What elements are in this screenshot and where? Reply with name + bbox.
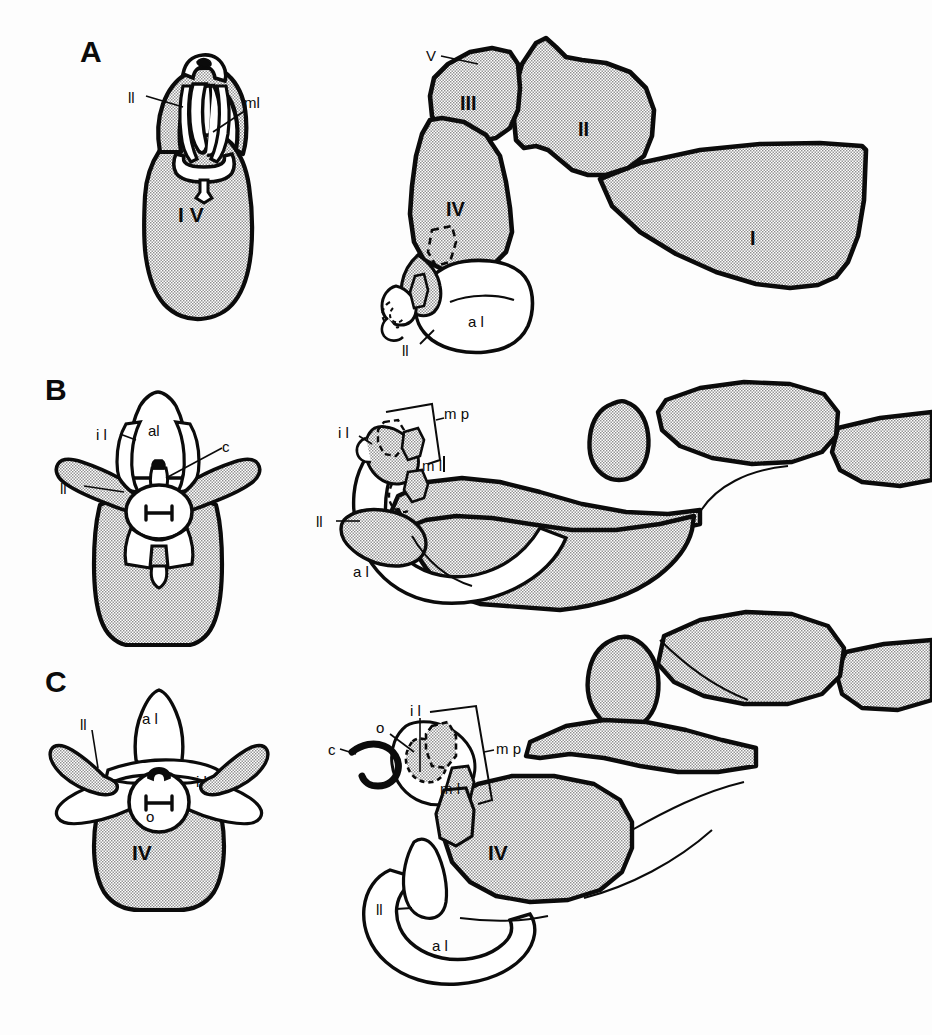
pedestal-keel-b: [151, 566, 166, 588]
segment-round-c: [588, 637, 659, 730]
label-al-c-dorsal: a l: [142, 710, 158, 727]
label-v-a: V: [426, 47, 436, 64]
label-iv-c-lateral: IV: [488, 841, 508, 864]
label-o-c-dorsal: o: [146, 808, 154, 825]
apical-notch-a: [197, 59, 211, 67]
panel-letter-a: A: [80, 35, 102, 68]
label-mp-b: m p: [444, 405, 469, 422]
label-ml-b: m l: [422, 457, 442, 474]
label-mp-c: m p: [496, 740, 521, 757]
mouthpart-dashed-c: [426, 722, 456, 768]
label-iv-a-lateral: IV: [446, 198, 466, 220]
label-ml-a: ml: [244, 94, 260, 111]
label-ll-c-dorsal: ll: [80, 716, 87, 733]
label-iii-a: III: [460, 92, 477, 114]
label-iv-a-dorsal: I V: [178, 203, 204, 226]
label-il-c: i l: [410, 702, 421, 719]
label-ml-c: m l: [440, 780, 460, 797]
label-o-c-lateral: o: [376, 719, 384, 736]
panel-letter-c: C: [45, 665, 67, 698]
segment-far-right-c: [836, 640, 932, 710]
anatomical-plate-svg: A ll ml: [0, 0, 932, 1035]
segment-round-b: [590, 401, 649, 480]
label-ii-a: II: [578, 118, 589, 140]
label-ll-b-lateral: ll: [316, 513, 323, 530]
label-ll-b-dorsal: ll: [60, 480, 67, 497]
label-c-b: c: [222, 438, 230, 455]
label-ll-c-lateral: ll: [376, 901, 383, 918]
label-al-c-lateral: a l: [432, 937, 448, 954]
label-al-b-lateral: a l: [353, 563, 369, 580]
label-ll-a-lateral: ll: [402, 342, 409, 359]
label-il-b: i l: [96, 426, 107, 443]
label-al-b: al: [148, 422, 160, 439]
mouthpart-plate-b: [402, 428, 424, 460]
mouthpart-plate2-b: [404, 470, 428, 502]
label-al-a: a l: [468, 313, 484, 330]
panel-letter-b: B: [45, 373, 67, 406]
label-il-b-lateral: i l: [338, 424, 349, 441]
label-iv-c-dorsal: IV: [132, 841, 152, 864]
cercus-dark-b: [152, 460, 165, 469]
mouthpart-lobe-3-a: [410, 274, 428, 308]
leader-ll-c-lateral: [396, 908, 412, 909]
label-c-c: c: [328, 741, 336, 758]
figure-plate: A ll ml: [0, 0, 932, 1035]
label-ll-a: ll: [128, 89, 135, 106]
label-i-a: I: [750, 227, 756, 249]
